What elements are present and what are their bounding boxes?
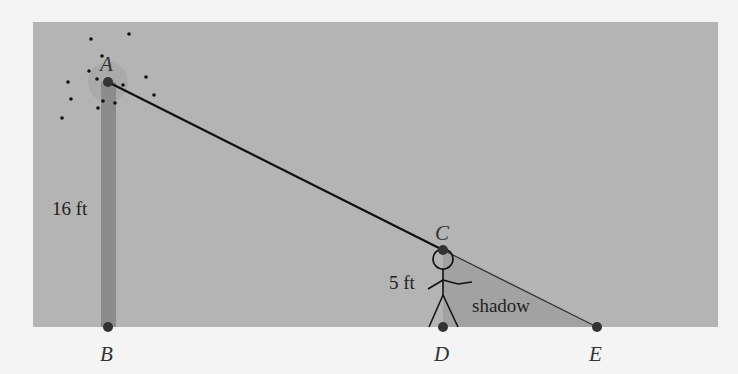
panel-background [33, 22, 718, 327]
label-d: D [433, 342, 449, 366]
point-a [103, 77, 113, 87]
shadow-label: shadow [472, 295, 530, 316]
similar-triangles-diagram: A B C D E 16 ft 5 ft shadow [0, 0, 738, 374]
label-c: C [435, 221, 450, 245]
lamp-height-label: 16 ft [52, 198, 88, 219]
label-b: B [100, 342, 113, 366]
point-d [438, 322, 448, 332]
lamp-pole [101, 82, 116, 327]
point-b [103, 322, 113, 332]
point-e [592, 322, 602, 332]
person-height-label: 5 ft [389, 272, 416, 293]
point-c [438, 245, 448, 255]
label-e: E [588, 342, 602, 366]
label-a: A [98, 52, 113, 76]
